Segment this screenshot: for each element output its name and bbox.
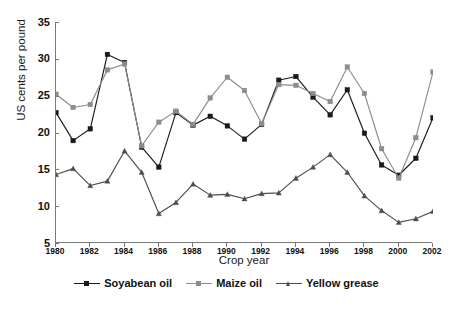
series-yellow-grease xyxy=(56,148,433,224)
y-tick-mark-20 xyxy=(55,133,59,134)
x-tick-mark-1998 xyxy=(363,243,364,247)
series-line xyxy=(56,151,433,222)
data-point-1993 xyxy=(276,78,281,83)
legend-item-soyabean-oil[interactable]: Soyabean oil xyxy=(74,277,172,289)
data-point-1997 xyxy=(345,87,350,92)
data-point-1999 xyxy=(379,163,384,168)
data-point-2000 xyxy=(396,176,401,181)
data-point-2002 xyxy=(430,209,433,214)
data-point-1997 xyxy=(345,65,350,70)
x-tick-mark-2000 xyxy=(398,243,399,247)
x-tick-mark-1988 xyxy=(192,243,193,247)
data-point-1998 xyxy=(362,131,367,136)
data-point-1998 xyxy=(362,91,367,96)
data-point-1982 xyxy=(88,102,93,107)
data-point-1990 xyxy=(225,124,230,129)
data-point-1988 xyxy=(190,181,195,186)
x-tick-mark-1996 xyxy=(329,243,330,247)
data-point-1994 xyxy=(293,176,298,181)
data-point-1993 xyxy=(276,82,281,87)
series-canvas xyxy=(56,22,433,243)
series-maize-oil xyxy=(56,62,433,181)
data-point-1994 xyxy=(294,74,299,79)
data-point-1985 xyxy=(139,143,144,148)
legend-marker xyxy=(286,281,290,286)
y-tick-mark-10 xyxy=(55,206,59,207)
data-point-1986 xyxy=(156,211,161,216)
legend-swatch-icon xyxy=(74,278,100,288)
legend-swatch-icon xyxy=(186,278,212,288)
plot-area xyxy=(55,22,432,243)
legend-item-maize-oil[interactable]: Maize oil xyxy=(186,277,262,289)
data-point-2002 xyxy=(431,70,433,75)
data-point-2001 xyxy=(414,135,419,140)
x-tick-mark-1992 xyxy=(261,243,262,247)
data-point-1992 xyxy=(259,121,264,126)
y-tick-mark-25 xyxy=(55,96,59,97)
data-point-1986 xyxy=(157,165,162,170)
x-axis-title: Crop year xyxy=(55,254,433,266)
data-point-2001 xyxy=(414,156,419,161)
series-line xyxy=(56,54,433,175)
y-tick-mark-5 xyxy=(55,243,59,244)
data-point-1987 xyxy=(174,109,179,114)
y-tick-mark-35 xyxy=(55,22,59,23)
data-point-1996 xyxy=(328,99,333,104)
data-point-1984 xyxy=(122,62,127,67)
data-point-1999 xyxy=(379,146,384,151)
data-point-1980 xyxy=(56,110,58,115)
data-point-1996 xyxy=(328,152,333,157)
y-tick-mark-30 xyxy=(55,59,59,60)
legend-marker xyxy=(84,281,89,286)
data-point-1984 xyxy=(122,148,127,153)
legend-label: Maize oil xyxy=(216,277,262,289)
data-point-1983 xyxy=(105,179,110,184)
chart-legend: Soyabean oilMaize oilYellow grease xyxy=(0,277,453,289)
chart-figure: US cents per pound 3530252015105 1980198… xyxy=(0,0,453,312)
legend-swatch-icon xyxy=(276,278,302,288)
x-tick-mark-1984 xyxy=(124,243,125,247)
series-soyabean-oil xyxy=(56,52,433,177)
data-point-2002 xyxy=(431,115,433,120)
x-tick-mark-1982 xyxy=(89,243,90,247)
y-tick-mark-15 xyxy=(55,169,59,170)
data-point-1989 xyxy=(208,114,213,119)
data-point-1991 xyxy=(242,88,247,93)
data-point-1981 xyxy=(71,105,76,110)
x-tick-mark-2002 xyxy=(432,243,433,247)
data-point-1986 xyxy=(157,120,162,125)
x-tick-mark-1994 xyxy=(295,243,296,247)
legend-label: Soyabean oil xyxy=(104,277,172,289)
legend-item-yellow-grease[interactable]: Yellow grease xyxy=(276,277,379,289)
data-point-1990 xyxy=(225,75,230,80)
data-point-1991 xyxy=(242,137,247,142)
series-line xyxy=(56,64,433,178)
data-point-1983 xyxy=(105,68,110,73)
data-point-1994 xyxy=(294,83,299,88)
data-point-1988 xyxy=(191,122,196,127)
legend-label: Yellow grease xyxy=(306,277,379,289)
legend-marker xyxy=(196,281,201,286)
data-point-1983 xyxy=(105,52,110,57)
x-tick-mark-1990 xyxy=(226,243,227,247)
x-tick-mark-1986 xyxy=(158,243,159,247)
data-point-1995 xyxy=(311,91,316,96)
data-point-1996 xyxy=(328,113,333,118)
data-point-1981 xyxy=(71,138,76,143)
data-point-1989 xyxy=(208,96,213,101)
data-point-1981 xyxy=(71,166,76,171)
data-point-1982 xyxy=(88,127,93,132)
